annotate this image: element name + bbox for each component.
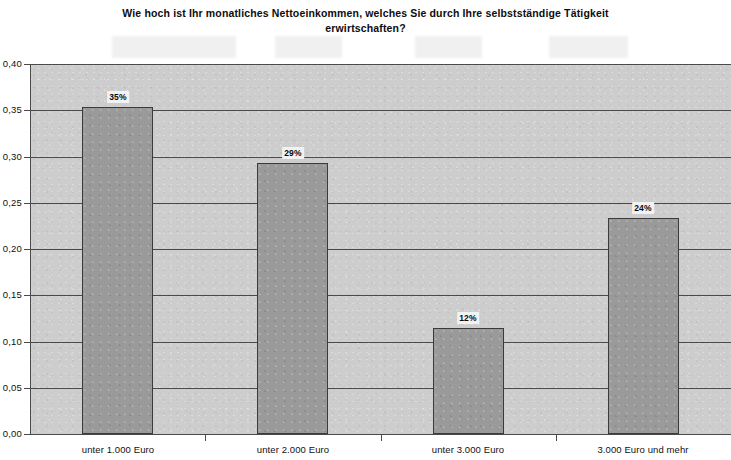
y-axis-tick-mark xyxy=(24,203,30,204)
x-axis-category-label: 3.000 Euro und mehr xyxy=(597,444,688,455)
y-axis-tick-mark xyxy=(24,342,30,343)
y-axis-tick-mark xyxy=(24,249,30,250)
y-axis-tick-label: 0,30 xyxy=(0,152,22,162)
y-axis-tick-mark xyxy=(24,434,30,435)
bar xyxy=(433,328,504,434)
y-axis-tick-label: 0,20 xyxy=(0,244,22,254)
y-axis-tick-label: 0,25 xyxy=(0,198,22,208)
bar-value-label: 12% xyxy=(457,312,479,324)
chart-title: Wie hoch ist Ihr monatliches Nettoeinkom… xyxy=(0,6,731,36)
y-axis-tick-label: 0,15 xyxy=(0,290,22,300)
gridline xyxy=(30,64,731,65)
y-axis-tick-mark xyxy=(24,64,30,65)
x-axis-tick-mark xyxy=(556,435,557,441)
bar-value-label: 29% xyxy=(282,147,304,159)
y-axis-tick-mark xyxy=(24,295,30,296)
bar-value-label: 35% xyxy=(107,91,129,103)
bar-value-label: 24% xyxy=(632,202,654,214)
y-axis-tick-mark xyxy=(24,157,30,158)
y-axis-tick-label: 0,05 xyxy=(0,383,22,393)
bar xyxy=(82,107,153,434)
scan-bleedthrough-artifact xyxy=(90,36,650,58)
x-axis-tick-mark xyxy=(205,435,206,441)
x-axis-tick-mark xyxy=(381,435,382,441)
bar-chart: Wie hoch ist Ihr monatliches Nettoeinkom… xyxy=(0,0,731,460)
x-axis-category-label: unter 3.000 Euro xyxy=(432,444,504,455)
x-axis-category-label: unter 1.000 Euro xyxy=(82,444,154,455)
y-axis-tick-mark xyxy=(24,110,30,111)
y-axis-tick-label: 0,10 xyxy=(0,337,22,347)
bar xyxy=(608,218,679,434)
y-axis-tick-label: 0,35 xyxy=(0,105,22,115)
x-axis-category-label: unter 2.000 Euro xyxy=(257,444,329,455)
bar xyxy=(257,163,328,434)
y-axis-tick-label: 0,00 xyxy=(0,429,22,439)
y-axis-tick-label: 0,40 xyxy=(0,59,22,69)
y-axis-tick-mark xyxy=(24,388,30,389)
